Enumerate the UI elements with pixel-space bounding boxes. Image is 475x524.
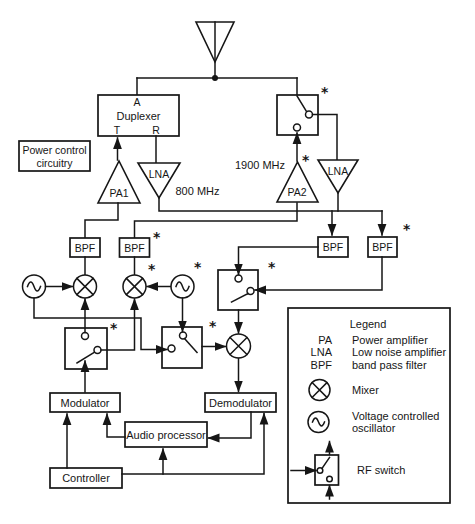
legend-vco-symbol [308, 412, 329, 433]
lna-1900-amplifier: LNA [318, 160, 358, 193]
rx-band-rf-switch: * [218, 259, 276, 310]
band-800mhz-label: 800 MHz [175, 185, 219, 197]
legend-abbr-bpf: BPF [311, 359, 333, 371]
pa2-label: PA2 [287, 186, 306, 198]
legend-title: Legend [350, 318, 387, 330]
demodulator-block: Demodulator [205, 393, 276, 412]
lo-select-rf-switch: * [162, 318, 217, 368]
wire-audio-to-modulator [107, 414, 125, 437]
wire-lna800-rx-bus [159, 198, 382, 211]
modulator-label: Modulator [61, 397, 110, 409]
vco2-asterisk: * [194, 259, 202, 275]
lna-800-amplifier: LNA [138, 136, 180, 198]
controller-block: Controller [50, 468, 122, 488]
modulator-block: Modulator [50, 393, 120, 412]
wire-demodulator-to-audio [209, 412, 252, 438]
pa1-label: PA1 [109, 187, 128, 199]
rx-band-switch-contact-800 [235, 275, 242, 282]
legend-mixer-label: Mixer [352, 384, 379, 396]
duplexer-label: Duplexer [116, 110, 160, 122]
vco1-symbol [23, 275, 46, 298]
lna-1900-label: LNA [328, 165, 348, 177]
legend-rf-switch-label: RF switch [357, 464, 405, 476]
bpf4-asterisk: * [403, 221, 411, 237]
audio-processor-block: Audio processor [125, 422, 207, 447]
legend-desc-lna: Low noise amplifier [352, 346, 446, 358]
power-control-label-line1: Power control [22, 144, 86, 156]
duplexer-block: A Duplexer T R [98, 95, 179, 136]
mixer3-symbol [227, 334, 251, 358]
rx-band-switch-asterisk: * [268, 259, 276, 275]
audio-processor-label: Audio processor [126, 429, 206, 441]
lna-800-label: LNA [149, 168, 169, 180]
legend-desc-pa: Power amplifier [352, 334, 428, 346]
bpf1-filter: BPF [70, 238, 100, 257]
band-1900mhz-label: 1900 MHz [235, 159, 285, 171]
tx-band-switch-contact-1900 [94, 347, 101, 354]
tx-band-switch-contact-800 [82, 333, 89, 340]
antenna-symbol [196, 22, 234, 81]
lo-select-switch-asterisk: * [209, 318, 217, 334]
bpf4-filter: BPF * [368, 221, 411, 257]
bpf4-label: BPF [372, 241, 392, 253]
rf-architecture-diagram: A Duplexer T R Power control circuitry P… [0, 0, 475, 524]
antenna-band-switch-contact-tx [294, 124, 301, 131]
bpf2-asterisk: * [153, 229, 161, 245]
bpf3-filter: BPF [318, 237, 348, 257]
lo-select-switch-contact-vco1 [168, 345, 175, 352]
mixer1-symbol [74, 275, 97, 298]
duplexer-port-a: A [133, 96, 140, 108]
wire-bpf1-to-pa1 [85, 203, 118, 238]
bpf2-filter: BPF * [120, 229, 162, 257]
antenna-band-switch-contact-rx [306, 111, 313, 118]
bpf1-label: BPF [75, 242, 95, 254]
legend-abbr-pa: PA [318, 334, 333, 346]
pa1-amplifier: PA1 [98, 138, 140, 203]
antenna-band-switch-asterisk: * [321, 84, 329, 100]
duplexer-port-r: R [152, 124, 160, 136]
tx-band-rf-switch: * [65, 320, 118, 369]
mixer2-symbol: * [123, 261, 156, 298]
legend-abbr-lna: LNA [311, 346, 333, 358]
duplexer-port-t: T [114, 124, 121, 136]
dual-band-rf-block-diagram-page: A Duplexer T R Power control circuitry P… [0, 0, 475, 524]
tx-band-switch-asterisk: * [110, 320, 118, 336]
power-control-label-line2: circuitry [36, 157, 73, 169]
legend-vco-label-line1: Voltage controlled [352, 410, 439, 422]
controller-label: Controller [62, 472, 110, 484]
antenna-band-rf-switch: * [277, 84, 329, 135]
mixer2-asterisk: * [148, 261, 156, 277]
legend-desc-bpf: band pass filter [352, 359, 427, 371]
bpf3-label: BPF [323, 241, 343, 253]
demodulator-label: Demodulator [209, 397, 272, 409]
vco2-symbol: * [171, 259, 202, 298]
pa2-asterisk: * [302, 152, 310, 168]
legend-switch-open-contact [327, 476, 333, 482]
power-control-block: Power control circuitry [19, 141, 90, 171]
lo-select-switch-contact-vco2 [180, 332, 187, 339]
bpf2-label: BPF [124, 242, 144, 254]
legend-mixer-symbol [309, 380, 330, 401]
legend-panel: Legend PA Power amplifier LNA Low noise … [288, 308, 450, 503]
legend-vco-label-line2: oscillator [352, 422, 396, 434]
